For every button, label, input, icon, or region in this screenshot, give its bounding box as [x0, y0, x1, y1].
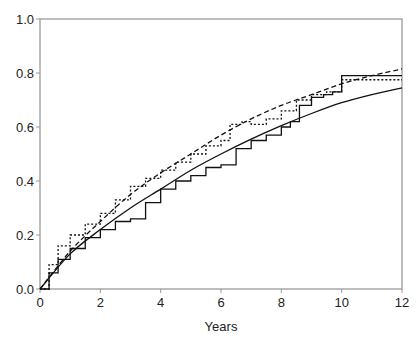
- series-fitted-solid-smooth: [40, 88, 402, 289]
- x-tick-label: 10: [334, 295, 348, 310]
- y-tick-label: 0.4: [16, 174, 34, 189]
- x-tick-label: 12: [395, 295, 409, 310]
- y-tick-label: 0.6: [16, 120, 34, 135]
- x-tick-label: 6: [217, 295, 224, 310]
- y-tick-label: 0.2: [16, 228, 34, 243]
- y-axis: 0.00.20.40.60.81.0: [16, 12, 40, 297]
- x-axis-title: Years: [205, 319, 238, 334]
- x-tick-label: 8: [278, 295, 285, 310]
- series-observed-solid-step: [40, 76, 402, 289]
- x-axis: 024681012: [36, 289, 409, 310]
- y-tick-label: 0.8: [16, 66, 34, 81]
- x-tick-label: 4: [157, 295, 164, 310]
- series-fitted-dashed-smooth: [40, 69, 402, 289]
- series-layer: [40, 69, 402, 289]
- x-tick-label: 0: [36, 295, 43, 310]
- x-tick-label: 2: [97, 295, 104, 310]
- cumulative-incidence-chart: 0.00.20.40.60.81.0 024681012 Years: [0, 0, 420, 343]
- y-tick-label: 1.0: [16, 12, 34, 27]
- y-tick-label: 0.0: [16, 282, 34, 297]
- series-observed-dotted-step: [40, 80, 402, 289]
